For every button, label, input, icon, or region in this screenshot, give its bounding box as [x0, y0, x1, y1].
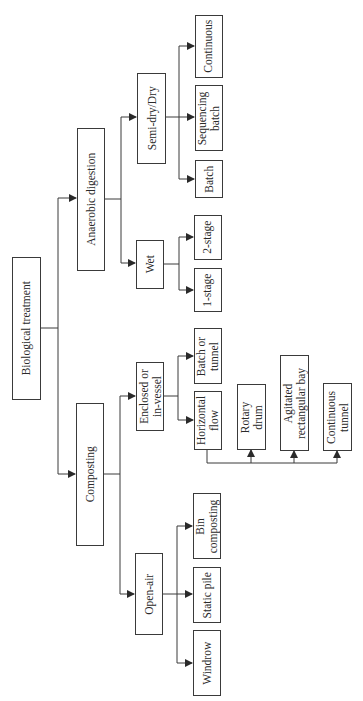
- node-windrow: Windrow: [193, 630, 221, 696]
- node-sequencing-batch: Sequencing batch: [195, 85, 223, 151]
- node-1-stage: 1-stage: [194, 268, 222, 312]
- node-open-air: Open-air: [135, 553, 163, 635]
- node-batch: Batch: [195, 160, 223, 198]
- node-label: Enclosed or in-vessel: [138, 369, 163, 424]
- node-label: Agitated rectangular bay: [282, 367, 307, 438]
- diagram-canvas: Biological treatment Anaerobic digestion…: [0, 0, 363, 701]
- node-continuous: Continuous: [195, 15, 223, 78]
- node-label: Continuous tunnel: [325, 390, 350, 443]
- node-label: Semi-dry/Dry: [145, 87, 158, 151]
- node-horizontal-flow: Horizontal flow: [194, 391, 222, 450]
- node-enclosed-in-vessel: Enclosed or in-vessel: [136, 362, 164, 431]
- node-static-pile: Static pile: [193, 567, 221, 623]
- node-continuous-tunnel: Continuous tunnel: [323, 383, 352, 451]
- node-label: Anaerobic digestion: [85, 153, 98, 246]
- node-label: Sequencing batch: [197, 91, 222, 145]
- node-batch-or-tunnel: Batch or tunnel: [194, 328, 222, 384]
- node-label: Windrow: [201, 642, 214, 685]
- node-label: Horizontal flow: [196, 396, 221, 445]
- node-label: Open-air: [143, 574, 156, 615]
- node-semi-dry-dry: Semi-dry/Dry: [137, 73, 166, 164]
- node-label: 1-stage: [202, 273, 215, 306]
- node-label: Batch or tunnel: [196, 336, 221, 375]
- node-label: Continuous: [203, 20, 216, 73]
- node-label: Wet: [144, 255, 157, 273]
- node-agitated-rectangular-bay: Agitated rectangular bay: [280, 355, 309, 451]
- node-label: Batch: [203, 166, 216, 193]
- node-label: Rotary drum: [239, 401, 264, 432]
- node-wet: Wet: [136, 240, 164, 289]
- node-label: Biological treatment: [20, 281, 33, 375]
- node-label: 2-stage: [202, 221, 215, 254]
- node-label: Bin composting: [195, 499, 220, 553]
- node-biological-treatment: Biological treatment: [12, 257, 41, 400]
- node-rotary-drum: Rotary drum: [237, 384, 266, 450]
- node-composting: Composting: [76, 403, 104, 546]
- node-2-stage: 2-stage: [194, 215, 222, 260]
- node-bin-composting: Bin composting: [193, 493, 221, 559]
- connector-lines: [0, 0, 363, 701]
- node-label: Composting: [84, 446, 97, 502]
- node-anaerobic-digestion: Anaerobic digestion: [77, 128, 105, 271]
- node-label: Static pile: [201, 572, 214, 618]
